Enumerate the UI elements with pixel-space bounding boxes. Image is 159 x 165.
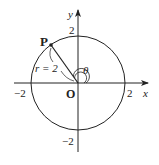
- point-p-label: P: [40, 34, 48, 49]
- radius-label-leader-2: [61, 71, 74, 81]
- tick-label-y-2: 2: [69, 24, 75, 36]
- origin-label: O: [66, 87, 75, 101]
- polar-circle-diagram: y x 2 −2 2 −2 O P r = 2 θ: [0, 0, 159, 165]
- point-p: [49, 43, 53, 47]
- axis-label-x: x: [142, 87, 148, 99]
- angle-label-theta: θ: [83, 64, 89, 76]
- tick-label-x-neg2: −2: [14, 87, 26, 99]
- axis-label-y: y: [67, 8, 73, 20]
- radius-label: r = 2: [35, 62, 58, 74]
- radius-label-leader: [50, 48, 53, 62]
- tick-label-x-2: 2: [127, 87, 133, 99]
- tick-label-y-neg2: −2: [62, 135, 74, 147]
